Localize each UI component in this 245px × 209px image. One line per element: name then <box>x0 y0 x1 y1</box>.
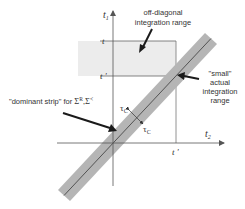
off-diagonal-label-line1: off-diagonal <box>143 8 182 17</box>
small-range-label-line4: range <box>210 96 229 105</box>
small-range-arrow <box>184 76 199 79</box>
t2-axis-label: t2 <box>205 128 211 140</box>
tick-tprime-x: t ' <box>172 147 180 157</box>
dominant-strip-arrow <box>63 113 110 128</box>
off-diagonal-label-line2: integration range <box>135 18 191 27</box>
small-range-label-line1: "small" <box>209 69 232 78</box>
off-diagonal-region <box>78 41 176 76</box>
tick-tprime-y: t ' <box>100 71 108 81</box>
tau-c-upper-label: τC <box>120 103 128 114</box>
t1-axis-label: t1 <box>103 9 109 21</box>
small-range-label-line3: integration <box>202 87 237 96</box>
tau-c-lower-label: τC <box>143 124 151 135</box>
small-range-label-line2: actual <box>210 78 230 87</box>
dominant-strip-label: "dominant strip" for ΣR,Σ< <box>9 96 93 107</box>
integration-range-diagram: t1 t2 t t ' t ' off-diagonal integration… <box>0 0 245 209</box>
